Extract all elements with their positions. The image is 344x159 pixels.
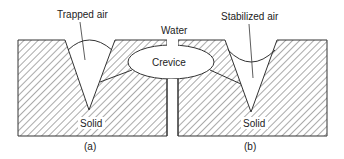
trapped-air-meniscus	[68, 40, 112, 50]
crevice-diagram: Trapped air Water Stabilized air Crevice…	[0, 0, 344, 159]
label-water: Water	[161, 25, 188, 36]
label-solid-right: Solid	[243, 118, 265, 129]
caption-a: (a)	[84, 141, 96, 152]
label-stabilized-air: Stabilized air	[221, 11, 279, 22]
label-crevice: Crevice	[152, 57, 186, 68]
label-solid-left: Solid	[80, 118, 102, 129]
label-trapped-air: Trapped air	[57, 9, 108, 20]
water-gap-top	[167, 38, 178, 46]
water-gap-bottom	[168, 79, 177, 137]
caption-b: (b)	[244, 141, 256, 152]
stabilized-air-leader	[249, 24, 253, 78]
